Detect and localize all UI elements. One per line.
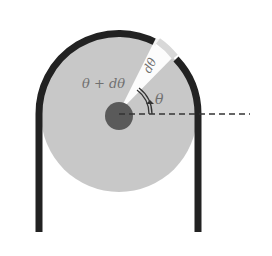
label-theta-plus-dtheta: θ + dθ <box>82 76 125 91</box>
pulley-hub <box>105 102 133 130</box>
label-theta: θ <box>155 91 164 107</box>
pulley-diagram: θ + dθ dθ θ <box>0 0 272 256</box>
